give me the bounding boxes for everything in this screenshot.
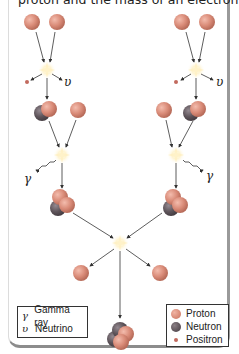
legend-item-gamma: γ Gamma ray <box>22 309 83 322</box>
positron-particle <box>174 80 178 84</box>
proton-icon <box>171 309 181 319</box>
helium3-right <box>163 189 188 216</box>
proton-right <box>156 102 172 118</box>
top-left-protons <box>24 14 65 30</box>
fusion-flash-icon <box>187 61 205 79</box>
legend-label: Neutron <box>186 320 222 333</box>
fusion-flash-icon <box>53 146 71 164</box>
top-right-protons <box>174 14 215 30</box>
positron-particle <box>25 80 29 84</box>
legend-label: Proton <box>186 307 215 320</box>
legend-item-positron: Positron <box>171 333 224 346</box>
neutrino-icon: υ <box>22 322 35 335</box>
positron-icon <box>174 338 178 342</box>
neutrino-symbol: υ <box>64 75 71 89</box>
helium3-left <box>50 189 75 216</box>
gamma-ray-wave <box>36 160 56 170</box>
helium4-nucleus <box>107 322 134 350</box>
neutron-icon <box>171 322 181 332</box>
legend-particles: Proton Neutron Positron <box>166 304 229 347</box>
legend-item-proton: Proton <box>171 307 224 320</box>
gamma-icon: γ <box>22 309 34 322</box>
legend-item-neutron: Neutron <box>171 320 224 333</box>
gamma-symbol: γ <box>24 172 32 186</box>
neutrino-symbol: υ <box>216 75 223 89</box>
deuterium-right <box>183 101 206 121</box>
fusion-flash-icon <box>38 61 56 79</box>
gamma-ray-wave <box>183 160 203 170</box>
legend-label: Neutrino <box>35 322 73 335</box>
proton-proton-chain-diagram: υ υ γ γ <box>0 0 239 354</box>
released-proton-left <box>73 265 89 281</box>
gamma-symbol: γ <box>206 169 214 183</box>
released-proton-right <box>152 265 168 281</box>
legend-label: Positron <box>186 333 223 346</box>
deuterium-left <box>34 101 57 121</box>
fusion-flash-icon <box>167 146 185 164</box>
proton-left <box>70 102 86 118</box>
legend-symbols: γ Gamma ray υ Neutrino <box>17 306 88 338</box>
